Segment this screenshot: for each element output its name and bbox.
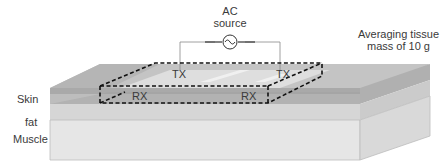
tx-left-label: TX — [172, 68, 186, 80]
rx-left-label: RX — [132, 90, 147, 102]
fat-layer — [50, 104, 360, 120]
ac-source-line1: AC — [209, 5, 251, 17]
muscle-label: Muscle — [13, 133, 48, 145]
tx-right-label: TX — [276, 68, 290, 80]
averaging-annotation: Averaging tissue mass of 10 g — [350, 28, 447, 52]
fat-label: fat — [25, 116, 37, 128]
ac-source-label: AC source — [209, 5, 251, 29]
annotation-line2: mass of 10 g — [350, 40, 447, 52]
skin-label: Skin — [17, 93, 38, 105]
annotation-line1: Averaging tissue — [350, 28, 447, 40]
ac-source-line2: source — [209, 17, 251, 29]
rx-right-label: RX — [241, 90, 256, 102]
muscle-layer — [50, 120, 360, 160]
